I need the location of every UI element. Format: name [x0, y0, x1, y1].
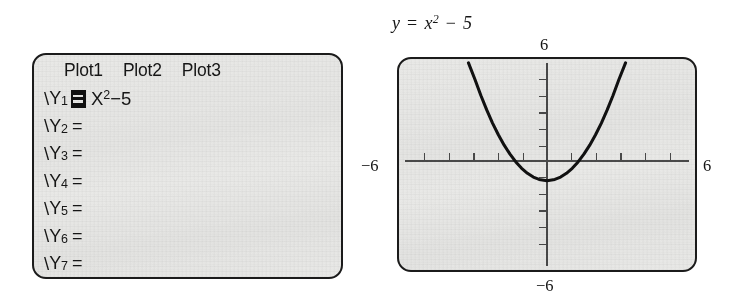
y4-equals[interactable]: = [72, 171, 83, 192]
y6-index: 6 [61, 232, 68, 246]
y3-label: Y [49, 143, 61, 164]
y7-equals[interactable]: = [72, 253, 83, 274]
y-function-row-2[interactable]: \ Y2 = [44, 113, 341, 141]
y3-index: 3 [61, 149, 68, 163]
y-editor-screen[interactable]: Plot1 Plot2 Plot3 \ Y1 X2−5 \ Y2 = \ [32, 53, 343, 279]
y-function-row-4[interactable]: \ Y4 = [44, 168, 341, 196]
title-operator: − [446, 13, 456, 33]
y5-label: Y [49, 198, 61, 219]
axes [405, 63, 689, 266]
plot-tab-plot2[interactable]: Plot2 [123, 60, 162, 81]
y2-label: Y [49, 116, 61, 137]
plot-tab-plot1[interactable]: Plot1 [64, 60, 103, 81]
title-equals: = [407, 13, 417, 33]
y2-equals[interactable]: = [72, 116, 83, 137]
y5-index: 5 [61, 204, 68, 218]
title-base: x [424, 13, 432, 33]
y1-label: Y [49, 88, 61, 109]
title-constant: 5 [463, 13, 472, 33]
title-exponent: 2 [433, 12, 439, 26]
y6-label: Y [49, 226, 61, 247]
graph-equation-title: y = x2 − 5 [392, 11, 472, 34]
graph-label-ymax: 6 [540, 35, 548, 55]
graph-label-xmax: 6 [703, 156, 711, 176]
y4-label: Y [49, 171, 61, 192]
y6-equals[interactable]: = [72, 226, 83, 247]
y-function-row-6[interactable]: \ Y6 = [44, 223, 341, 251]
plot-tab-plot3[interactable]: Plot3 [182, 60, 221, 81]
y-axis-ticks [539, 80, 547, 245]
y1-equals-selected-indicator[interactable] [71, 90, 86, 108]
parabola-plot [399, 59, 695, 270]
y-function-row-7[interactable]: \ Y7 = [44, 250, 341, 278]
y1-expression[interactable]: X2−5 [91, 87, 131, 110]
y-editor-content: Plot1 Plot2 Plot3 \ Y1 X2−5 \ Y2 = \ [34, 55, 341, 277]
y7-label: Y [49, 253, 61, 274]
graph-label-xmin: −6 [361, 156, 379, 176]
y2-index: 2 [61, 122, 68, 136]
graph-label-ymin: −6 [536, 276, 554, 296]
y1-index: 1 [61, 94, 68, 108]
y5-equals[interactable]: = [72, 198, 83, 219]
y-function-row-3[interactable]: \ Y3 = [44, 140, 341, 168]
graph-screen[interactable] [397, 57, 697, 272]
y-function-row-5[interactable]: \ Y5 = [44, 195, 341, 223]
calculator-figure: y = x2 − 5 Plot1 Plot2 Plot3 \ Y1 X2−5 \… [0, 0, 748, 304]
plot-tabs-row: Plot1 Plot2 Plot3 [44, 60, 341, 85]
title-lhs: y [392, 13, 400, 33]
y1-expression-base: X [91, 88, 103, 109]
y-function-row-1[interactable]: \ Y1 X2−5 [44, 85, 341, 113]
y1-expression-tail: −5 [110, 88, 131, 109]
y4-index: 4 [61, 177, 68, 191]
y7-index: 7 [61, 259, 68, 273]
y1-expression-exponent: 2 [103, 88, 110, 102]
y3-equals[interactable]: = [72, 143, 83, 164]
